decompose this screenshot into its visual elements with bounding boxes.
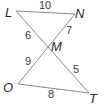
segment-LN bbox=[16, 11, 75, 14]
vertex-label-L: L bbox=[5, 5, 12, 20]
length-label-NM: 7 bbox=[66, 24, 72, 36]
geometry-diagram: L N M O T 10 7 6 9 5 8 bbox=[0, 0, 108, 111]
length-label-OT: 8 bbox=[48, 88, 54, 100]
vertex-label-M: M bbox=[51, 39, 62, 54]
length-label-OM: 9 bbox=[25, 55, 31, 67]
vertex-label-N: N bbox=[75, 6, 85, 21]
length-label-MT: 5 bbox=[73, 63, 79, 75]
vertex-label-T: T bbox=[89, 91, 98, 106]
vertex-label-O: O bbox=[3, 80, 13, 95]
length-label-LM: 6 bbox=[25, 29, 31, 41]
length-label-LN: 10 bbox=[39, 0, 51, 11]
